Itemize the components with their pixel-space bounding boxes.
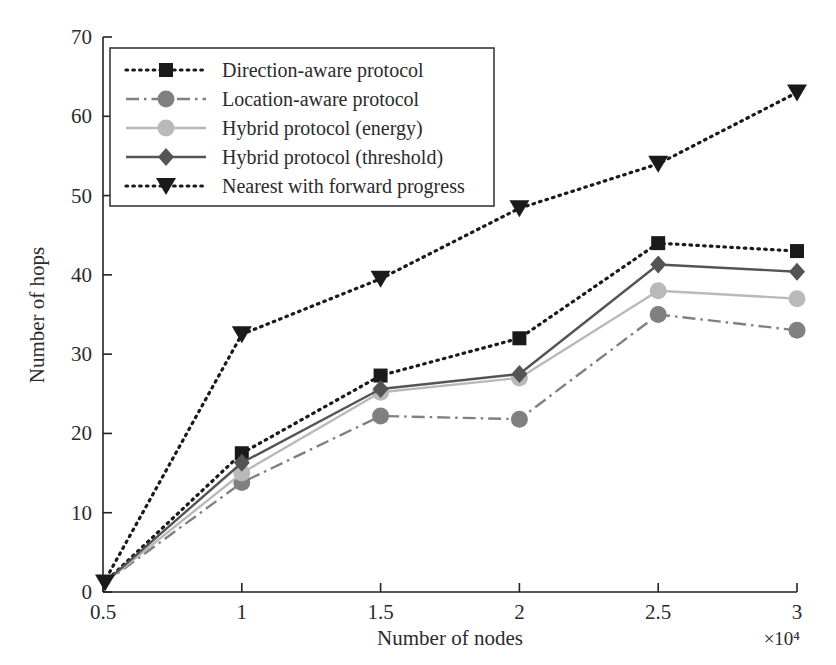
line-chart-canvas: 010203040506070 0.511.522.53 Direction-a… (0, 0, 836, 665)
x-axis-tick-label: 1.5 (367, 600, 393, 624)
data-point-marker (789, 290, 806, 307)
legend-label: Location-aware protocol (222, 88, 420, 111)
legend-marker-circle-icon (158, 120, 175, 137)
data-point-marker (650, 306, 667, 323)
legend-label: Hybrid protocol (energy) (222, 117, 423, 140)
y-axis-tick-label: 20 (71, 421, 92, 445)
chart-figure: 010203040506070 0.511.522.53 Direction-a… (0, 0, 836, 665)
x-axis-tick-label: 1 (237, 600, 248, 624)
legend-label: Nearest with forward progress (222, 175, 465, 198)
data-point-marker (790, 244, 804, 258)
data-point-marker (512, 331, 526, 345)
y-axis-tick-label: 30 (71, 342, 92, 366)
y-axis-tick-label: 60 (71, 104, 92, 128)
legend-marker-square-icon (159, 63, 173, 77)
data-point-marker (511, 411, 528, 428)
data-point-marker (650, 282, 667, 299)
legend-label: Hybrid protocol (threshold) (222, 146, 443, 169)
y-axis-tick-label: 10 (71, 501, 92, 525)
y-axis-title: Number of hops (25, 247, 49, 383)
data-point-marker (789, 322, 806, 339)
x-axis-tick-label: 3 (792, 600, 803, 624)
y-axis-tick-label: 70 (71, 25, 92, 49)
legend-marker-circle-icon (158, 91, 175, 108)
x-axis-tick-label: 2.5 (645, 600, 671, 624)
x-axis-exponent-label: ×10⁴ (764, 628, 801, 649)
data-point-marker (372, 407, 389, 424)
x-axis-tick-label: 2 (514, 600, 525, 624)
y-axis-tick-label: 50 (71, 184, 92, 208)
x-axis-tick-label: 0.5 (90, 600, 116, 624)
legend: Direction-aware protocolLocation-aware p… (110, 48, 494, 206)
x-axis-title: Number of nodes (377, 626, 523, 650)
legend-label: Direction-aware protocol (222, 59, 424, 82)
data-point-marker (651, 236, 665, 250)
y-axis-tick-label: 40 (71, 263, 92, 287)
